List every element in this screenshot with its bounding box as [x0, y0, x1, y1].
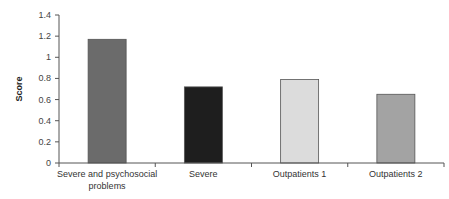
bar-outpatients-2	[377, 94, 415, 163]
y-tick-label: 1.4	[38, 10, 51, 20]
bars	[88, 39, 415, 163]
bar-severe-and-psychosocial-problems	[88, 39, 126, 163]
y-tick-label: 0.6	[38, 95, 51, 105]
y-tick-label: 1.2	[38, 31, 51, 41]
x-category-label: Outpatients 2	[369, 169, 423, 179]
y-tick-label: 1	[46, 52, 51, 62]
y-tick-label: 0.2	[38, 137, 51, 147]
x-category-label: Outpatients 1	[273, 169, 327, 179]
bar-severe	[184, 87, 222, 163]
y-tick-label: 0	[46, 158, 51, 168]
bar-chart: Score 00.20.40.60.811.21.4 Severe and ps…	[0, 0, 449, 199]
x-category-label: Severe	[189, 169, 218, 179]
bar-outpatients-1	[281, 79, 319, 163]
y-tick-label: 0.4	[38, 116, 51, 126]
x-axis-labels: Severe and psychosocialproblemsSevereOut…	[57, 169, 423, 191]
x-category-label: Severe and psychosocial	[57, 169, 157, 179]
y-axis-label: Score	[14, 76, 24, 101]
x-axis-ticks	[59, 163, 444, 167]
y-axis-ticks: 00.20.40.60.811.21.4	[38, 10, 59, 168]
y-tick-label: 0.8	[38, 73, 51, 83]
x-category-label: problems	[89, 181, 127, 191]
